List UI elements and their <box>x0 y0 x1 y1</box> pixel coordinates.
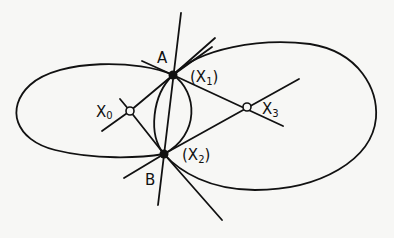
point-A-dot <box>169 71 178 80</box>
line-X0-B <box>130 111 164 154</box>
line-X0-A <box>130 75 173 111</box>
label-X3: X3 <box>262 100 279 119</box>
label-B: B <box>145 171 155 189</box>
diagram-canvas: A B (X1) (X2) X0 X3 <box>0 0 394 238</box>
label-A: A <box>157 49 168 67</box>
label-X2: (X2) <box>182 146 210 165</box>
geometry-diagram: A B (X1) (X2) X0 X3 <box>0 0 394 238</box>
label-X1: (X1) <box>190 68 218 87</box>
point-B-dot <box>160 150 169 159</box>
line-B-X3 <box>164 79 299 154</box>
left-ellipse <box>16 64 173 157</box>
point-X3-circle <box>243 103 251 111</box>
point-X0-circle <box>126 107 134 115</box>
lens-arc-left <box>154 75 173 154</box>
label-X0: X0 <box>96 103 113 121</box>
line-AB <box>158 13 181 205</box>
